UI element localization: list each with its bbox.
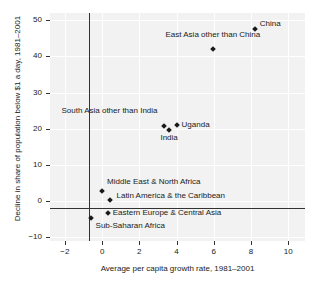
data-point-label: Uganda <box>182 120 210 129</box>
data-point-label: Middle East & North Africa <box>107 177 200 186</box>
x-tick-mark <box>102 241 103 245</box>
x-tick-mark <box>65 241 66 245</box>
y-tick-label: −10 <box>20 232 42 241</box>
x-tick-label: 0 <box>89 247 115 256</box>
y-tick-mark <box>46 237 50 238</box>
gridline-vertical <box>288 13 289 241</box>
y-tick-label: 40 <box>20 51 42 60</box>
x-tick-mark <box>251 241 252 245</box>
y-tick-mark <box>46 201 50 202</box>
y-tick-mark <box>46 93 50 94</box>
y-tick-mark <box>46 165 50 166</box>
data-point-label: East Asia other than China <box>165 30 260 39</box>
y-tick-mark <box>46 20 50 21</box>
y-tick-label: 50 <box>20 15 42 24</box>
x-tick-label: −2 <box>52 247 78 256</box>
gridline-vertical <box>251 13 252 241</box>
data-point-label: Latin America & the Caribbean <box>116 191 225 200</box>
x-tick-label: 6 <box>201 247 227 256</box>
data-point-label: India <box>160 133 177 142</box>
data-point-label: China <box>260 19 281 28</box>
data-point-label: Eastern Europe & Central Asia <box>113 208 222 217</box>
y-tick-mark <box>46 129 50 130</box>
y-tick-label: 20 <box>20 124 42 133</box>
y-tick-label: 30 <box>20 88 42 97</box>
x-tick-mark <box>214 241 215 245</box>
x-tick-mark <box>177 241 178 245</box>
scatter-chart-figure: 50403020100−10 −20246810 ChinaEast Asia … <box>0 0 322 284</box>
y-axis-zero-line <box>89 13 90 241</box>
x-tick-label: 2 <box>126 247 152 256</box>
gridline-vertical <box>65 13 66 241</box>
gridline-vertical <box>102 13 103 241</box>
y-tick-label: 0 <box>20 196 42 205</box>
data-point-label: Sub-Saharan Africa <box>96 221 165 230</box>
y-tick-label: 10 <box>20 160 42 169</box>
x-tick-label: 8 <box>238 247 264 256</box>
x-axis-title: Average per capita growth rate, 1981–200… <box>50 264 305 273</box>
data-point-label: South Asia other than India <box>61 106 157 115</box>
y-axis-title: Decline in share of population below $1 … <box>13 4 22 234</box>
y-tick-mark <box>46 56 50 57</box>
x-tick-mark <box>288 241 289 245</box>
x-tick-label: 4 <box>164 247 190 256</box>
x-tick-mark <box>139 241 140 245</box>
x-tick-label: 10 <box>275 247 301 256</box>
